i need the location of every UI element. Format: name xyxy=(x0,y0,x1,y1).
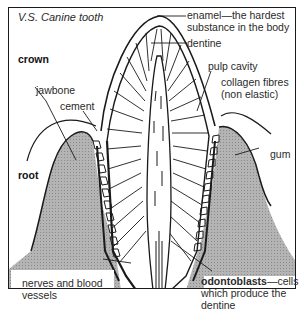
top-margin xyxy=(0,0,304,7)
pulp-cavity-label: pulp cavity xyxy=(208,60,258,72)
collagen-label-line2: (non elastic) xyxy=(221,88,278,100)
odontoblasts-term: odontoblasts xyxy=(201,275,267,287)
odontoblasts-label-line3: dentine xyxy=(201,299,235,311)
enamel-label-line2: substance in the body xyxy=(187,21,289,33)
cement-label: cement xyxy=(60,100,94,112)
odontoblasts-dash: —cells xyxy=(267,275,299,287)
nerves-label: nerves and blood xyxy=(22,277,103,289)
dentine-label: dentine xyxy=(187,37,221,49)
gum-label: gum xyxy=(270,148,290,160)
diagram-frame xyxy=(8,7,296,289)
enamel-label: enamel—the hardest xyxy=(187,9,284,21)
diagram-title: V.S. Canine tooth xyxy=(18,11,103,23)
tooth-illustration xyxy=(9,8,296,289)
jawbone-label: jawbone xyxy=(36,84,75,96)
crown-label: crown xyxy=(18,53,49,65)
nerves-label-line2: vessels xyxy=(22,289,57,301)
odontoblasts-label: odontoblasts—cells xyxy=(201,275,298,287)
left-gum-shape xyxy=(9,132,121,289)
root-label: root xyxy=(18,169,38,181)
collagen-label: collagen fibres xyxy=(221,76,289,88)
odontoblasts-label-line2: which produce the xyxy=(201,287,286,299)
